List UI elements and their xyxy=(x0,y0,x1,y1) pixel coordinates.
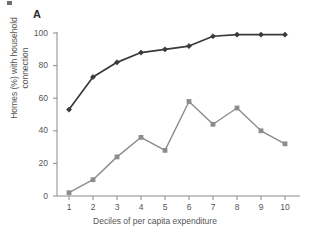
x-tick-label-7: 7 xyxy=(203,202,223,212)
data-point-dark-series-9 xyxy=(258,32,263,37)
data-point-grey-series-5 xyxy=(163,148,168,153)
chart-figure: A Homes (%) with household connection De… xyxy=(0,0,310,236)
series-line-grey-series xyxy=(69,101,285,192)
y-tick-label-60: 60 xyxy=(24,93,48,103)
x-tick-label-8: 8 xyxy=(227,202,247,212)
x-tick-label-9: 9 xyxy=(251,202,271,212)
data-point-grey-series-2 xyxy=(91,177,96,182)
data-point-grey-series-10 xyxy=(283,141,288,146)
data-point-grey-series-3 xyxy=(115,154,120,159)
data-point-dark-series-4 xyxy=(138,50,143,55)
data-point-grey-series-8 xyxy=(235,106,240,111)
y-tick-label-100: 100 xyxy=(24,28,48,38)
x-tick-label-3: 3 xyxy=(107,202,127,212)
data-point-dark-series-7 xyxy=(210,34,215,39)
data-point-grey-series-1 xyxy=(67,190,72,195)
x-tick-label-4: 4 xyxy=(131,202,151,212)
y-tick-label-20: 20 xyxy=(24,158,48,168)
x-tick-label-5: 5 xyxy=(155,202,175,212)
y-tick-label-80: 80 xyxy=(24,60,48,70)
data-point-grey-series-4 xyxy=(139,135,144,140)
x-tick-label-2: 2 xyxy=(83,202,103,212)
x-tick-label-6: 6 xyxy=(179,202,199,212)
y-tick-label-40: 40 xyxy=(24,125,48,135)
data-point-dark-series-10 xyxy=(282,32,287,37)
data-point-dark-series-8 xyxy=(234,32,239,37)
x-tick-label-1: 1 xyxy=(59,202,79,212)
data-point-grey-series-7 xyxy=(211,122,216,127)
y-tick-label-0: 0 xyxy=(24,191,48,201)
series-line-dark-series xyxy=(69,35,285,110)
data-point-dark-series-5 xyxy=(162,47,167,52)
data-point-grey-series-9 xyxy=(259,128,264,133)
data-point-grey-series-6 xyxy=(187,99,192,104)
x-tick-label-10: 10 xyxy=(275,202,295,212)
data-point-dark-series-6 xyxy=(186,43,191,48)
